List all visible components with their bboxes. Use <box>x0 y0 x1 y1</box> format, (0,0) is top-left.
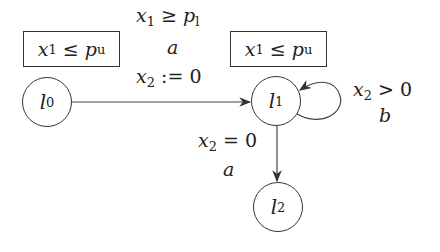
location-l2: l2 <box>253 182 303 232</box>
invariant-l0: x1 ≤ pu <box>23 31 120 67</box>
invariant-l1: x1 ≤ pu <box>230 31 327 67</box>
edge-l1-self-guard: x2 > 0 <box>353 80 412 102</box>
location-l1: l1 <box>251 76 301 126</box>
edge-l0-l1-guard: x1 ≥ pl <box>136 6 199 28</box>
edge-l0-l1-action: a <box>167 38 178 57</box>
edge-l1-self-action: b <box>379 106 391 125</box>
location-l0: l0 <box>22 77 72 127</box>
edge-l1-self-loop <box>297 82 341 119</box>
edge-l1-l2-action: a <box>223 160 234 179</box>
edge-l0-l1-reset: x2 := 0 <box>136 67 202 89</box>
edge-l1-l2-guard: x2 = 0 <box>198 131 257 153</box>
